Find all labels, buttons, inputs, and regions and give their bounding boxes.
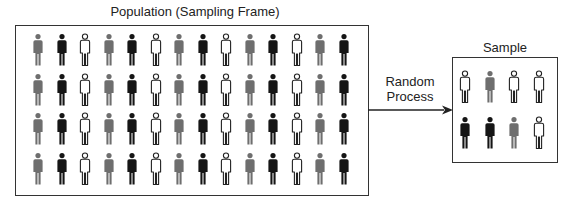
- population-person-icon-gray: [32, 112, 44, 146]
- population-person-icon-black: [56, 112, 68, 146]
- population-person-icon-white: [79, 73, 91, 107]
- sample-person-icon-gray: [508, 116, 520, 150]
- population-person-icon-white: [150, 112, 162, 146]
- population-person-icon-white: [220, 112, 232, 146]
- population-title: Population (Sampling Frame): [100, 4, 290, 19]
- population-person-icon-gray: [173, 33, 185, 67]
- population-person-icon-gray: [244, 73, 256, 107]
- population-person-icon-white: [220, 33, 232, 67]
- sample-person-icon-white: [533, 70, 545, 104]
- population-person-icon-white: [150, 73, 162, 107]
- population-person-icon-black: [126, 112, 138, 146]
- population-person-icon-black: [338, 73, 350, 107]
- sample-person-icon-white: [459, 70, 471, 104]
- population-person-icon-gray: [244, 112, 256, 146]
- population-person-icon-white: [220, 152, 232, 186]
- sample-person-icon-white: [533, 116, 545, 150]
- sample-person-icon-black: [459, 116, 471, 150]
- population-person-icon-gray: [314, 112, 326, 146]
- process-label-line1: Random: [380, 74, 440, 89]
- population-person-icon-gray: [314, 152, 326, 186]
- population-person-icon-gray: [103, 33, 115, 67]
- population-person-icon-white: [79, 112, 91, 146]
- sample-person-icon-black: [484, 116, 496, 150]
- population-person-icon-white: [291, 152, 303, 186]
- population-person-icon-gray: [314, 33, 326, 67]
- population-person-icon-black: [197, 152, 209, 186]
- population-person-icon-gray: [314, 73, 326, 107]
- sample-person-icon-white: [508, 70, 520, 104]
- population-person-icon-black: [126, 152, 138, 186]
- population-person-icon-white: [150, 33, 162, 67]
- population-person-icon-gray: [173, 73, 185, 107]
- population-person-icon-black: [56, 33, 68, 67]
- population-person-icon-gray: [244, 33, 256, 67]
- population-person-icon-white: [79, 33, 91, 67]
- population-person-icon-gray: [103, 112, 115, 146]
- population-person-icon-gray: [244, 152, 256, 186]
- population-person-icon-white: [79, 152, 91, 186]
- population-person-icon-gray: [32, 33, 44, 67]
- population-person-icon-black: [338, 152, 350, 186]
- population-person-icon-white: [220, 73, 232, 107]
- population-person-icon-white: [150, 152, 162, 186]
- population-person-icon-white: [291, 112, 303, 146]
- population-person-icon-black: [197, 73, 209, 107]
- population-person-icon-gray: [173, 112, 185, 146]
- population-person-icon-white: [291, 73, 303, 107]
- population-person-icon-black: [126, 33, 138, 67]
- population-person-icon-gray: [32, 152, 44, 186]
- population-person-icon-white: [291, 33, 303, 67]
- population-person-icon-black: [197, 33, 209, 67]
- population-person-icon-black: [338, 112, 350, 146]
- population-person-icon-black: [56, 73, 68, 107]
- population-person-icon-black: [267, 33, 279, 67]
- population-person-icon-black: [56, 152, 68, 186]
- population-person-icon-black: [338, 33, 350, 67]
- arrow-icon: [368, 104, 454, 116]
- sample-person-icon-gray: [484, 70, 496, 104]
- population-person-icon-gray: [103, 73, 115, 107]
- population-person-icon-black: [267, 152, 279, 186]
- population-person-icon-black: [126, 73, 138, 107]
- population-person-icon-black: [267, 73, 279, 107]
- population-person-icon-gray: [32, 73, 44, 107]
- population-person-icon-black: [197, 112, 209, 146]
- process-label-line2: Process: [380, 89, 440, 104]
- sample-title: Sample: [470, 40, 540, 55]
- population-person-icon-black: [267, 112, 279, 146]
- population-person-icon-gray: [103, 152, 115, 186]
- population-person-icon-gray: [173, 152, 185, 186]
